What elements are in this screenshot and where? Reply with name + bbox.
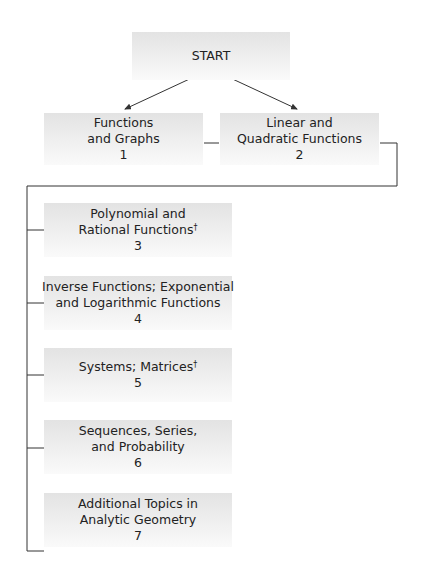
node-1-number: 1 — [120, 147, 128, 163]
node-4-number: 4 — [134, 311, 142, 327]
node-4: Inverse Functions; Exponential and Logar… — [44, 276, 232, 330]
node-5-line-1-text: Systems; Matrices — [79, 359, 193, 374]
node-1-line-1: Functions — [94, 115, 154, 131]
node-7: Additional Topics in Analytic Geometry 7 — [44, 493, 232, 547]
node-1-line-2: and Graphs — [87, 131, 159, 147]
node-3-line-2: Rational Functions† — [79, 222, 198, 238]
node-5: Systems; Matrices† 5 — [44, 348, 232, 402]
node-6-number: 6 — [134, 455, 142, 471]
node-2-line-1: Linear and — [266, 115, 332, 131]
start-node: START — [132, 32, 290, 80]
dagger-mark: † — [193, 360, 197, 369]
node-7-line-1: Additional Topics in — [78, 496, 198, 512]
node-2: Linear and Quadratic Functions 2 — [220, 113, 379, 165]
node-6-line-2: and Probability — [91, 439, 185, 455]
node-7-number: 7 — [134, 528, 142, 544]
node-1: Functions and Graphs 1 — [44, 113, 203, 165]
node-3: Polynomial and Rational Functions† 3 — [44, 203, 232, 257]
node-2-number: 2 — [296, 147, 304, 163]
dagger-mark: † — [193, 223, 197, 232]
node-6: Sequences, Series, and Probability 6 — [44, 420, 232, 474]
node-4-line-2: and Logarithmic Functions — [55, 295, 220, 311]
node-5-number: 5 — [134, 375, 142, 391]
node-5-line-1: Systems; Matrices† — [79, 359, 197, 375]
node-6-line-1: Sequences, Series, — [79, 423, 198, 439]
node-4-line-1: Inverse Functions; Exponential — [42, 279, 234, 295]
node-3-number: 3 — [134, 238, 142, 254]
start-label: START — [192, 48, 231, 64]
node-3-line-1: Polynomial and — [90, 206, 185, 222]
node-7-line-2: Analytic Geometry — [80, 512, 197, 528]
node-3-line-2-text: Rational Functions — [79, 222, 194, 237]
node-2-line-2: Quadratic Functions — [237, 131, 362, 147]
